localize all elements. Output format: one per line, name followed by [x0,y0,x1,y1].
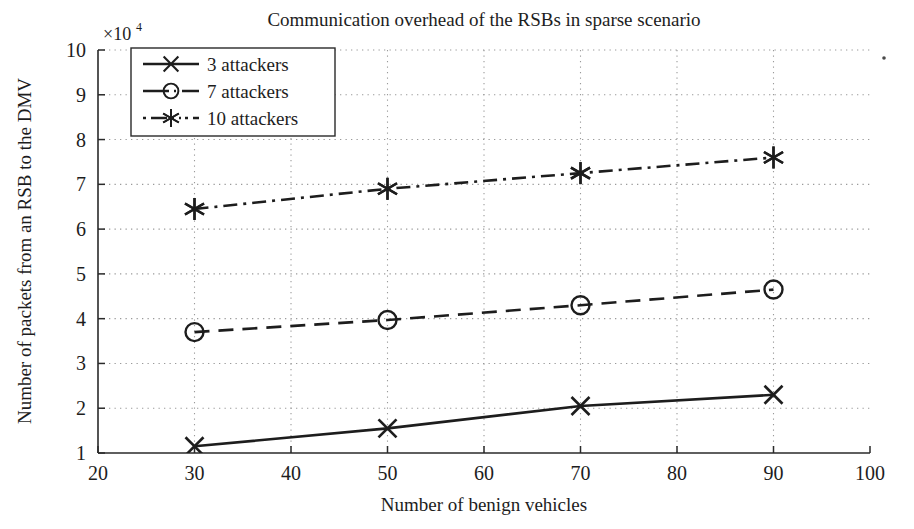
y-tick-label: 9 [76,84,86,106]
legend-label: 10 attackers [207,108,298,129]
y-tick-label: 7 [76,173,86,195]
chart-figure: 123456789102030405060708090100 Communica… [0,0,914,529]
x-tick-label: 100 [855,462,885,484]
y-tick-label: 3 [76,352,86,374]
chart-legend[interactable]: 3 attackers7 attackers10 attackers [131,48,335,136]
x-tick-label: 70 [571,462,591,484]
x-tick-label: 50 [378,462,398,484]
x-tick-label: 30 [185,462,205,484]
y-multiplier-exponent: 4 [136,20,142,34]
x-tick-label: 20 [88,462,108,484]
y-tick-label: 8 [76,129,86,151]
legend-label: 3 attackers [207,54,289,75]
chart-title: Communication overhead of the RSBs in sp… [267,9,700,30]
y-tick-label: 5 [76,263,86,285]
x-tick-label: 80 [667,462,687,484]
y-axis-title: Number of packets from an RSB to the DMV [14,78,35,424]
x-tick-label: 90 [764,462,784,484]
legend-label: 7 attackers [207,81,289,102]
y-tick-label: 1 [76,442,86,464]
y-tick-label: 10 [66,39,86,61]
y-tick-label: 6 [76,218,86,240]
x-tick-label: 60 [474,462,494,484]
y-multiplier-base: ×10 [103,24,131,44]
x-tick-label: 40 [281,462,301,484]
x-axis-title: Number of benign vehicles [381,494,587,515]
y-tick-label: 2 [76,397,86,419]
y-tick-label: 4 [76,308,86,330]
line-chart: 123456789102030405060708090100 Communica… [0,0,914,529]
scan-artifact-dot [882,56,886,60]
